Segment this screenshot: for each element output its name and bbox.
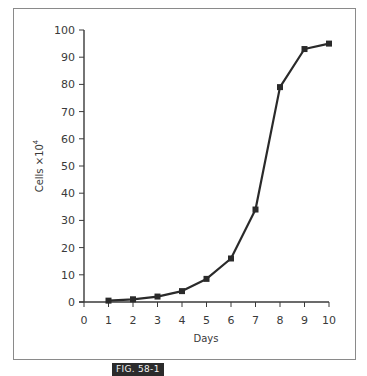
y-tick-label: 20 <box>61 242 75 255</box>
y-tick-label: 30 <box>61 214 75 227</box>
cell-growth-chart: 0102030405060708090100 012345678910 Cell… <box>0 0 367 376</box>
data-point-marker <box>302 46 308 52</box>
data-point-marker <box>253 207 259 213</box>
y-tick-label: 60 <box>61 133 75 146</box>
x-tick-label: 8 <box>277 314 284 327</box>
x-tick-label: 6 <box>228 314 235 327</box>
y-tick-label: 40 <box>61 187 75 200</box>
data-point-marker <box>130 296 136 302</box>
y-axis: 0102030405060708090100 <box>54 24 84 309</box>
x-tick-label: 3 <box>154 314 161 327</box>
x-tick-label: 0 <box>81 314 88 327</box>
y-axis-title: Cells ×104 <box>32 139 45 192</box>
figure-label: FIG. 58-1 <box>112 363 164 376</box>
data-point-marker <box>179 288 185 294</box>
series-line <box>109 44 330 301</box>
y-tick-label: 70 <box>61 106 75 119</box>
x-tick-label: 2 <box>130 314 137 327</box>
data-point-marker <box>277 84 283 90</box>
data-point-marker <box>106 298 112 304</box>
x-axis: 012345678910 <box>79 302 336 327</box>
y-tick-label: 0 <box>68 296 75 309</box>
y-tick-label: 90 <box>61 51 75 64</box>
y-tick-label: 10 <box>61 269 75 282</box>
data-series <box>106 41 333 304</box>
data-point-marker <box>326 41 332 47</box>
data-point-marker <box>204 276 210 282</box>
x-axis-title: Days <box>194 333 219 344</box>
y-tick-label: 100 <box>54 24 75 37</box>
x-tick-label: 1 <box>105 314 112 327</box>
x-tick-label: 10 <box>322 314 336 327</box>
data-point-marker <box>155 294 161 300</box>
x-tick-label: 7 <box>252 314 259 327</box>
x-tick-label: 9 <box>301 314 308 327</box>
y-tick-label: 80 <box>61 78 75 91</box>
y-tick-label: 50 <box>61 160 75 173</box>
x-tick-label: 4 <box>179 314 186 327</box>
x-tick-label: 5 <box>203 314 210 327</box>
data-point-marker <box>228 255 234 261</box>
